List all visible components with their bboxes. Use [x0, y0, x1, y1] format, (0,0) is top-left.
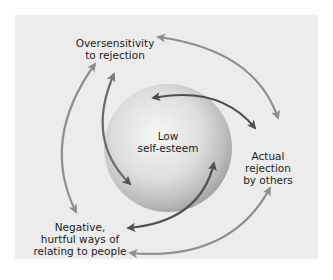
label-negative-ways: Negative, hurtful ways of relating to pe…: [30, 221, 130, 257]
label-actual-rejection: Actual rejection by others: [238, 150, 298, 186]
label-oversensitivity: Oversensitivity to rejection: [70, 37, 160, 61]
label-center-low-self-esteem: Low self-esteem: [126, 130, 210, 154]
arrow-negative-ways-oversensitivity: [62, 64, 95, 212]
